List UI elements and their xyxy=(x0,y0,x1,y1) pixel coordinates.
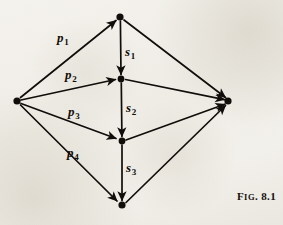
edge-lower-middle-to-sink xyxy=(126,104,225,140)
edge-label-p2: p2 xyxy=(65,68,77,84)
figure-page: p1 p2 p3 p4 s1 s2 s3 FIG. 8.1 xyxy=(0,0,283,225)
source-node xyxy=(13,97,20,104)
upper-middle-node xyxy=(118,76,125,83)
edge-upper-middle-to-lower-middle xyxy=(121,83,122,137)
figure-caption: FIG. 8.1 xyxy=(237,191,276,202)
top-node xyxy=(116,13,123,20)
edge-label-p1: p1 xyxy=(57,31,69,47)
edge-label-s2: s2 xyxy=(126,101,136,117)
sink-node xyxy=(224,97,231,104)
caption-smallcaps: IG xyxy=(244,192,255,202)
edge-top-to-upper-middle xyxy=(120,21,121,75)
edge-label-s3: s3 xyxy=(126,161,136,177)
edge-label-p4: p4 xyxy=(67,146,79,162)
edge-bottom-to-sink xyxy=(126,106,226,203)
bottom-node xyxy=(118,201,125,208)
edge-label-s1: s1 xyxy=(125,45,135,61)
caption-number: 8.1 xyxy=(261,190,276,202)
edge-upper-middle-to-sink xyxy=(126,80,225,100)
edge-top-to-sink xyxy=(124,20,226,98)
edge-label-p3: p3 xyxy=(68,105,80,121)
lower-middle-node xyxy=(119,138,126,145)
